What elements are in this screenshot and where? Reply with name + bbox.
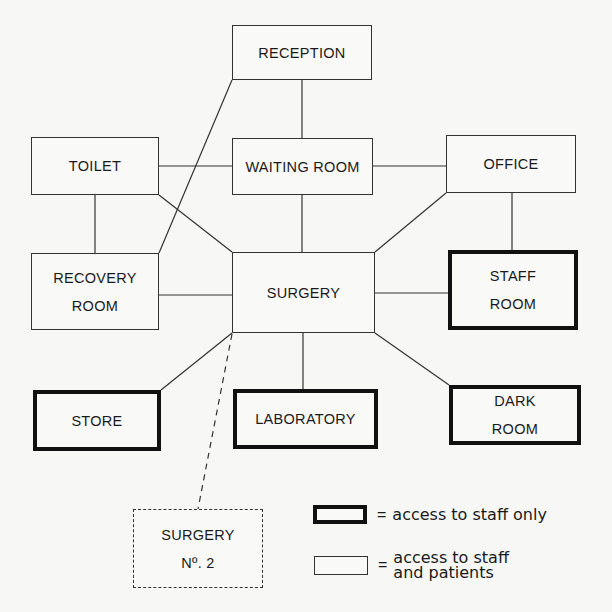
room-reception: RECEPTION	[232, 25, 372, 80]
room-staff-room: STAFF ROOM	[448, 250, 578, 330]
room-label: LABORATORY	[255, 405, 356, 433]
room-label-line2: ROOM	[72, 292, 118, 320]
room-label: SURGERY	[267, 279, 341, 307]
room-toilet: TOILET	[31, 137, 159, 195]
room-label: OFFICE	[484, 150, 539, 178]
room-surgery-no2: SURGERY Nº. 2	[133, 509, 263, 588]
legend-text: access to staff only	[392, 507, 547, 522]
room-label: RECEPTION	[258, 39, 345, 67]
room-label: TOILET	[69, 152, 121, 180]
legend-thick-box-icon	[313, 505, 367, 524]
room-label-line2: ROOM	[492, 415, 538, 443]
room-label-line1: SURGERY	[161, 521, 235, 549]
room-label-line2: Nº. 2	[181, 549, 214, 577]
legend-staff-and-patients: = access to staff and patients	[314, 550, 509, 580]
legend-text: access to staff and patients	[393, 550, 509, 580]
room-laboratory: LABORATORY	[233, 389, 378, 449]
room-waiting-room: WAITING ROOM	[232, 138, 373, 195]
room-label-line1: DARK	[494, 387, 536, 415]
room-label: WAITING ROOM	[245, 153, 359, 181]
legend-staff-only: = access to staff only	[313, 505, 547, 524]
room-label-line1: RECOVERY	[53, 264, 137, 292]
room-label-line1: STAFF	[490, 262, 536, 290]
room-store: STORE	[33, 390, 161, 451]
room-recovery-room: RECOVERY ROOM	[31, 253, 159, 330]
legend-thin-box-icon	[314, 556, 368, 575]
legend-equals: =	[378, 556, 387, 574]
legend-text-line2: and patients	[393, 565, 509, 580]
room-label: STORE	[71, 407, 122, 435]
room-office: OFFICE	[446, 135, 576, 193]
legend-equals: =	[377, 506, 386, 524]
room-label-line2: ROOM	[490, 290, 536, 318]
room-surgery: SURGERY	[232, 252, 375, 333]
room-dark-room: DARK ROOM	[449, 385, 581, 445]
